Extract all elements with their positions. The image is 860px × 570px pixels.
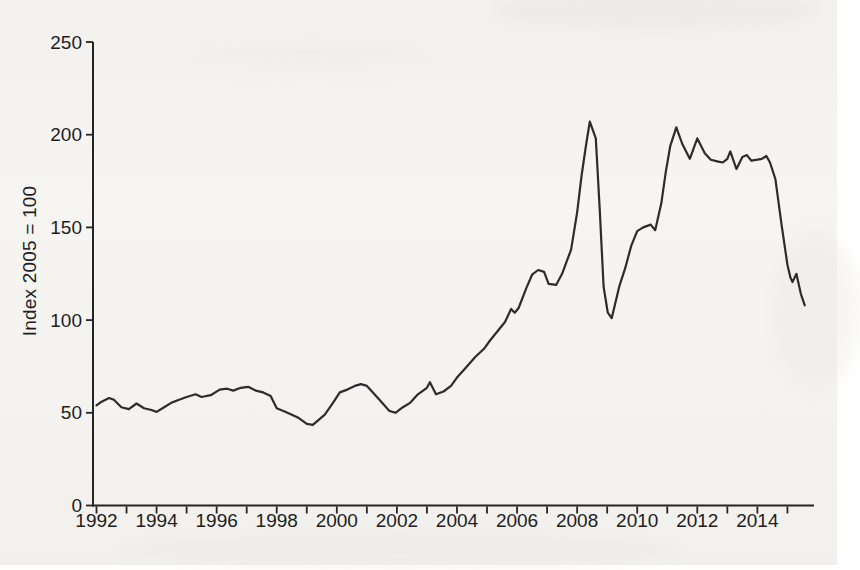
y-tick-label: 250 bbox=[50, 32, 82, 53]
x-tick-label: 1992 bbox=[75, 510, 117, 531]
index-data-line bbox=[97, 122, 805, 425]
x-tick-label: 2002 bbox=[376, 510, 418, 531]
y-tick-label: 100 bbox=[50, 310, 82, 331]
x-tick-label: 2014 bbox=[736, 510, 779, 531]
x-tick-label: 2008 bbox=[556, 510, 598, 531]
y-tick-label: 150 bbox=[50, 217, 82, 238]
y-tick-label: 200 bbox=[50, 124, 82, 145]
x-tick-label: 2012 bbox=[676, 510, 718, 531]
x-tick-label: 2000 bbox=[316, 510, 358, 531]
x-tick-label: 2006 bbox=[496, 510, 538, 531]
y-tick-label: 50 bbox=[61, 402, 82, 423]
x-tick-label: 1996 bbox=[196, 510, 238, 531]
x-tick-label: 1998 bbox=[256, 510, 298, 531]
x-tick-label: 2010 bbox=[616, 510, 658, 531]
x-tick-label: 1994 bbox=[135, 510, 178, 531]
x-tick-label: 2004 bbox=[436, 510, 479, 531]
